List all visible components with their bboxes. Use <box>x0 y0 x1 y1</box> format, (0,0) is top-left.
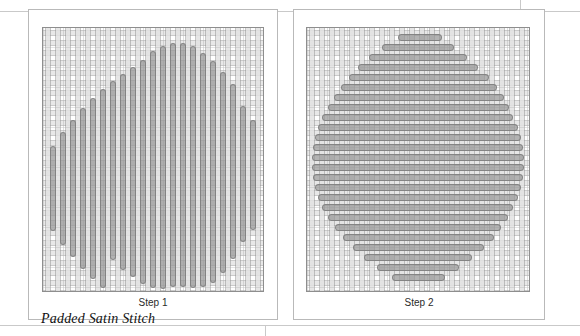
padding-stitch-vertical <box>180 43 186 287</box>
padding-stitch-vertical <box>250 120 256 230</box>
satin-stitch-horizontal <box>369 54 467 61</box>
satin-stitch-horizontal <box>322 114 513 121</box>
satin-stitch-horizontal <box>392 274 445 281</box>
padding-stitch-vertical <box>220 72 226 273</box>
padding-stitch-vertical <box>110 81 116 260</box>
satin-stitch-horizontal <box>334 94 504 101</box>
satin-stitch-horizontal <box>377 264 459 271</box>
padding-stitch-vertical <box>100 89 106 288</box>
fabric-swatch-step-1 <box>42 27 264 292</box>
padding-stitch-vertical <box>130 67 136 277</box>
satin-stitch-horizontal <box>313 174 523 181</box>
satin-stitch-horizontal <box>313 144 523 151</box>
padding-stitch-vertical <box>200 53 206 287</box>
satin-stitch-horizontal <box>353 244 484 251</box>
figure-page: Step 1 Padded Satin Stitch Step 2 <box>0 0 580 336</box>
padding-stitch-vertical <box>60 132 66 245</box>
satin-stitch-horizontal <box>328 214 508 221</box>
padding-stitch-vertical <box>160 46 166 289</box>
satin-stitch-horizontal <box>364 254 472 261</box>
satin-stitch-horizontal <box>328 104 509 111</box>
padding-stitch-vertical <box>170 43 176 287</box>
step-label-2: Step 2 <box>294 297 544 308</box>
satin-stitch-horizontal <box>343 234 494 241</box>
satin-stitch-horizontal <box>312 164 524 171</box>
padding-stitch-vertical <box>120 74 126 270</box>
satin-stitch-horizontal <box>341 84 497 91</box>
padding-stitch-vertical <box>230 84 236 259</box>
padding-stitch-vertical <box>240 106 246 242</box>
satin-stitch-horizontal <box>315 184 521 191</box>
satin-stitch-horizontal <box>382 44 454 51</box>
satin-stitch-horizontal <box>315 134 521 141</box>
step-label-1: Step 1 <box>29 297 277 308</box>
stitch-layer-horizontal <box>307 28 529 291</box>
satin-stitch-horizontal <box>398 34 442 41</box>
padding-stitch-vertical <box>210 61 216 283</box>
satin-stitch-horizontal <box>358 64 478 71</box>
satin-stitch-horizontal <box>312 154 524 161</box>
padding-stitch-vertical <box>150 51 156 288</box>
panel-step-2: Step 2 <box>293 9 545 320</box>
figure-caption: Padded Satin Stitch <box>41 311 155 327</box>
satin-stitch-horizontal <box>322 204 513 211</box>
padding-stitch-vertical <box>90 98 96 279</box>
satin-stitch-horizontal <box>335 224 501 231</box>
padding-stitch-vertical <box>80 108 86 269</box>
padding-stitch-vertical <box>140 60 146 284</box>
bottom-tick-rule <box>265 325 266 336</box>
panel-step-1: Step 1 Padded Satin Stitch <box>28 9 278 320</box>
padding-stitch-vertical <box>190 46 196 288</box>
satin-stitch-horizontal <box>349 74 489 81</box>
satin-stitch-horizontal <box>318 194 518 201</box>
padding-stitch-vertical <box>50 146 56 231</box>
padding-stitch-vertical <box>70 120 76 257</box>
satin-stitch-horizontal <box>318 124 518 131</box>
fabric-swatch-step-2 <box>306 27 530 292</box>
stitch-layer-vertical <box>43 28 263 291</box>
